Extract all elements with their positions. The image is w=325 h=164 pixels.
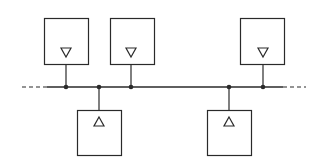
junction-dot <box>261 85 266 90</box>
junction-dot <box>227 85 232 90</box>
station-box <box>45 19 89 65</box>
bus-network-diagram <box>0 0 325 164</box>
station-top-3 <box>241 19 285 90</box>
station-bottom-2 <box>208 85 252 156</box>
station-top-2 <box>111 19 155 90</box>
top-stations <box>45 19 285 90</box>
junction-dot <box>97 85 102 90</box>
junction-dot <box>64 85 69 90</box>
junction-dot <box>129 85 134 90</box>
station-box <box>241 19 285 65</box>
diagram-svg <box>0 0 325 164</box>
station-bottom-1 <box>78 85 122 156</box>
bottom-stations <box>78 85 252 156</box>
station-top-1 <box>45 19 89 90</box>
station-box <box>111 19 155 65</box>
